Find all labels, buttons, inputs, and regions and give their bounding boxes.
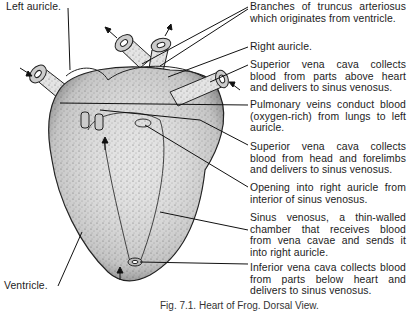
label-superior-vena-cava-head: Superior vena cava collects blood from h… <box>250 141 406 176</box>
figure-caption: Fig. 7.1. Heart of Frog. Dorsal View. <box>160 300 319 311</box>
label-right-auricle: Right auricle. <box>250 41 406 53</box>
label-inferior-vena-cava: Inferior vena cava collects blood from p… <box>250 262 406 297</box>
label-superior-vena-cava-upper: Superior vena cava collects blood from p… <box>250 59 406 94</box>
label-left-auricle: Left auricle. <box>6 1 61 13</box>
label-sinus-venosus: Sinus venosus, a thin-walled chamber tha… <box>250 212 406 258</box>
label-truncus-branches: Branches of truncus arteriosus which ori… <box>250 1 406 24</box>
label-ventricle: Ventricle. <box>4 280 48 292</box>
label-opening-right-auricle: Opening into right auricle from interior… <box>250 182 406 205</box>
label-pulmonary-veins: Pulmonary veins conduct blood (oxygen-ri… <box>250 99 406 134</box>
heart-body <box>49 66 231 280</box>
truncus-branch-left <box>112 31 152 68</box>
